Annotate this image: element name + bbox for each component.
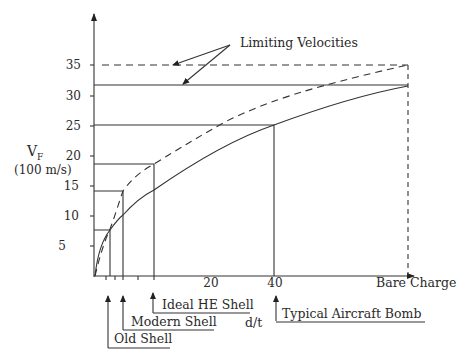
x-tick-label: 20 <box>203 276 218 290</box>
y-label-units: (100 m/s) <box>14 163 72 177</box>
y-tick-label: 20 <box>66 149 81 163</box>
solid-velocity-curve <box>95 86 408 276</box>
modern-shell-label: Modern Shell <box>131 314 217 329</box>
y-tick-label: 25 <box>66 119 81 133</box>
x-tick-label: 40 <box>267 276 282 290</box>
case-annotations: Old Shell Modern Shell Ideal HE Shell d/… <box>108 293 425 348</box>
old-shell-label: Old Shell <box>114 331 172 346</box>
y-tick-label: 10 <box>64 209 79 223</box>
aircraft-bomb-label: Typical Aircraft Bomb <box>282 306 421 321</box>
y-tick-label: 15 <box>64 179 79 193</box>
velocity-chart: 5 10 15 20 25 30 35 20 40 Bare Charge V … <box>0 0 468 359</box>
y-tick-label: 35 <box>66 58 81 72</box>
limiting-velocities-annotation: Limiting Velocities <box>173 35 358 84</box>
y-ticks: 5 10 15 20 25 30 35 <box>58 58 94 253</box>
y-tick-label: 5 <box>58 239 66 253</box>
y-label-sub: F <box>37 152 43 162</box>
axes <box>94 14 414 277</box>
reference-lines <box>94 125 274 276</box>
x-ticks: 20 40 Bare Charge <box>106 275 456 290</box>
y-axis-label: V F (100 m/s) <box>14 143 72 177</box>
x-axis-label: d/t <box>245 315 262 330</box>
ideal-he-shell-label: Ideal HE Shell <box>162 297 254 312</box>
x-end-label: Bare Charge <box>376 275 456 290</box>
limiting-label: Limiting Velocities <box>240 35 358 50</box>
y-tick-label: 30 <box>66 89 81 103</box>
